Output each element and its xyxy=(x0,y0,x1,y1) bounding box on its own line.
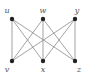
node-label-y: y xyxy=(74,6,80,15)
node-u xyxy=(10,17,14,21)
node-x xyxy=(41,59,45,63)
node-y xyxy=(73,17,77,21)
node-label-v: v xyxy=(5,65,10,74)
node-z xyxy=(73,59,77,63)
node-w xyxy=(41,17,45,21)
graph-edges xyxy=(12,19,75,61)
node-label-z: z xyxy=(76,65,82,74)
node-label-w: w xyxy=(40,6,47,15)
node-label-x: x xyxy=(41,65,46,74)
node-v xyxy=(10,59,14,63)
bipartite-graph-diagram: uwyvxz xyxy=(0,0,88,76)
node-label-u: u xyxy=(4,6,9,15)
